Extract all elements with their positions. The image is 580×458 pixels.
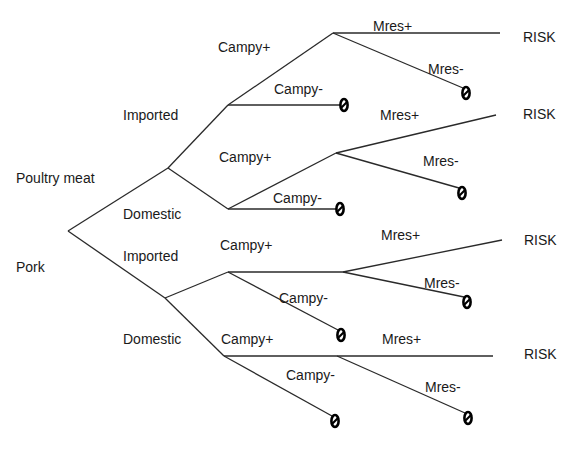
null-outcome-icon bbox=[337, 329, 344, 341]
event-tree-diagram: Poultry meat Pork Imported Domestic Impo… bbox=[0, 0, 580, 458]
mres-label: Mres+ bbox=[380, 107, 419, 123]
mres-label: Mres+ bbox=[381, 227, 420, 243]
tree-labels: Poultry meat Pork Imported Domestic Impo… bbox=[16, 18, 557, 395]
tree-edge bbox=[165, 272, 228, 298]
tree-edge bbox=[165, 298, 224, 356]
risk-label: RISK bbox=[523, 106, 556, 122]
tree-edge bbox=[224, 356, 332, 416]
campy-label: Campy- bbox=[274, 81, 323, 97]
risk-label: RISK bbox=[524, 232, 557, 248]
null-outcome-icon bbox=[462, 87, 469, 99]
mres-label: Mres- bbox=[423, 153, 459, 169]
null-outcome-icon bbox=[331, 415, 338, 427]
tree-edge bbox=[343, 240, 502, 272]
mres-label: Mres- bbox=[428, 61, 464, 77]
risk-label: RISK bbox=[524, 346, 557, 362]
null-outcome-icon bbox=[464, 412, 471, 424]
tree-edge bbox=[68, 231, 165, 298]
null-outcome-icon bbox=[336, 203, 343, 215]
root-label-pork: Pork bbox=[16, 259, 46, 275]
mres-label: Mres+ bbox=[373, 18, 412, 34]
campy-label: Campy+ bbox=[219, 149, 272, 165]
campy-label: Campy+ bbox=[220, 237, 273, 253]
tree-edge bbox=[168, 168, 228, 209]
origin-label-pork-imported: Imported bbox=[123, 248, 178, 264]
null-outcome-icon bbox=[458, 187, 465, 199]
root-label-poultry-meat: Poultry meat bbox=[16, 170, 95, 186]
campy-label: Campy+ bbox=[218, 39, 271, 55]
campy-label: Campy- bbox=[279, 290, 328, 306]
risk-label: RISK bbox=[523, 29, 556, 45]
null-outcome-icon bbox=[463, 296, 470, 308]
origin-label-poultry-domestic: Domestic bbox=[123, 206, 181, 222]
null-outcome-icon bbox=[340, 99, 347, 111]
mres-label: Mres- bbox=[425, 379, 461, 395]
mres-label: Mres- bbox=[424, 275, 460, 291]
origin-label-pork-domestic: Domestic bbox=[123, 331, 181, 347]
origin-label-poultry-imported: Imported bbox=[123, 107, 178, 123]
campy-label: Campy- bbox=[286, 367, 335, 383]
campy-label: Campy- bbox=[273, 190, 322, 206]
mres-label: Mres+ bbox=[382, 331, 421, 347]
campy-label: Campy+ bbox=[221, 331, 274, 347]
